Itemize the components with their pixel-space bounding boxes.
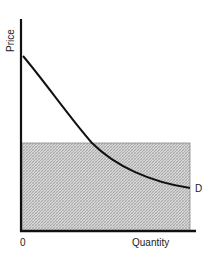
y-axis-label: Price	[5, 29, 16, 52]
demand-diagram: Price Quantity 0 D	[0, 0, 211, 258]
x-axis-label: Quantity	[132, 237, 169, 248]
curve-label-d: D	[195, 183, 202, 194]
origin-label: 0	[20, 237, 26, 248]
